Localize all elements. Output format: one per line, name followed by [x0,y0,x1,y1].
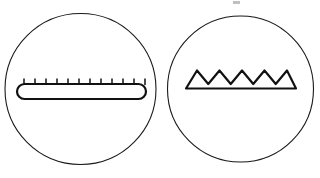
figure-root [0,0,320,178]
scan-smudge [233,1,240,4]
two-panel-profile-diagram [0,0,320,178]
